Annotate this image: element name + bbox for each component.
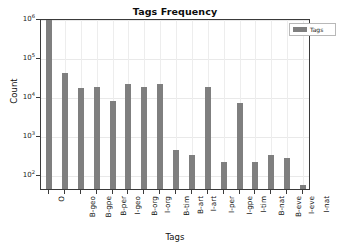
bar-I-eve (284, 158, 290, 189)
bar-I-gpe (221, 162, 227, 189)
x-tick-label-I-per: I-per (227, 196, 236, 213)
bar-O (46, 20, 52, 189)
x-tick-label-I-gpe: I-gpe (244, 196, 253, 215)
bar-B-tim (157, 84, 163, 189)
x-tick-label-I-tim: I-tim (258, 196, 267, 213)
x-tick-label-B-eve: B-eve (294, 196, 303, 217)
bar-B-gpe (78, 88, 84, 189)
x-tick-label-I-eve: I-eve (307, 196, 316, 214)
x-tick-mark (239, 190, 240, 194)
bar-I-art (189, 155, 195, 189)
x-tick-label-I-geo: I-geo (133, 196, 142, 214)
x-tick-mark (207, 190, 208, 194)
x-tick-label-O: O (57, 196, 66, 202)
plot-area (40, 19, 310, 190)
x-tick-label-B-art: B-art (196, 196, 205, 214)
bar-B-eve (268, 155, 274, 190)
bar-I-tim (237, 103, 243, 189)
y-tick-label: 102 (23, 171, 35, 179)
x-tick-label-I-nat: I-nat (322, 196, 331, 213)
x-tick-mark (254, 190, 255, 194)
x-tick-mark (302, 190, 303, 194)
x-tick-mark (80, 190, 81, 194)
y-tick-mark (36, 97, 40, 98)
x-tick-mark (159, 190, 160, 194)
x-tick-mark (175, 190, 176, 194)
chart-figure: Tags Frequency Count 102103104105106 OB-… (0, 0, 346, 249)
y-tick-label: 105 (23, 54, 35, 62)
x-tick-mark (286, 190, 287, 194)
bar-B-per (94, 87, 100, 189)
bar-B-geo (62, 73, 68, 189)
x-tick-mark (223, 190, 224, 194)
y-axis-label: Count (9, 61, 19, 121)
bar-I-nat (300, 185, 306, 189)
x-tick-label-B-geo: B-geo (88, 196, 97, 217)
x-tick-mark (270, 190, 271, 194)
x-tick-mark (127, 190, 128, 194)
x-tick-mark (112, 190, 113, 194)
bar-I-org (141, 87, 147, 189)
x-tick-mark (143, 190, 144, 194)
x-tick-label-B-per: B-per (118, 196, 127, 216)
chart-title: Tags Frequency (40, 6, 310, 17)
x-axis-label: Tags (40, 232, 310, 242)
y-tick-label: 106 (23, 15, 35, 23)
bar-B-org (125, 84, 131, 189)
legend: Tags (289, 23, 336, 36)
x-tick-label-B-org: B-org (150, 196, 159, 216)
bar-B-nat (252, 162, 258, 189)
y-tick-mark (36, 19, 40, 20)
x-tick-mark (96, 190, 97, 194)
y-tick-mark (36, 175, 40, 176)
x-tick-mark (48, 190, 49, 194)
bar-I-per (205, 87, 211, 189)
x-tick-label-I-org: I-org (163, 196, 172, 213)
legend-swatch-tags (293, 27, 307, 32)
x-tick-mark (191, 190, 192, 194)
y-tick-label: 104 (23, 93, 35, 101)
y-tick-label: 103 (23, 132, 35, 140)
x-tick-mark (64, 190, 65, 194)
x-tick-label-B-gpe: B-gpe (104, 196, 113, 217)
x-tick-label-B-nat: B-nat (277, 196, 286, 216)
y-tick-mark (36, 136, 40, 137)
x-tick-label-I-art: I-art (209, 196, 218, 211)
bar-series (41, 20, 309, 189)
bar-B-art (173, 150, 179, 189)
bar-I-geo (110, 101, 116, 189)
x-tick-label-B-tim: B-tim (182, 196, 191, 216)
legend-label-tags: Tags (310, 26, 323, 33)
y-tick-mark (36, 58, 40, 59)
